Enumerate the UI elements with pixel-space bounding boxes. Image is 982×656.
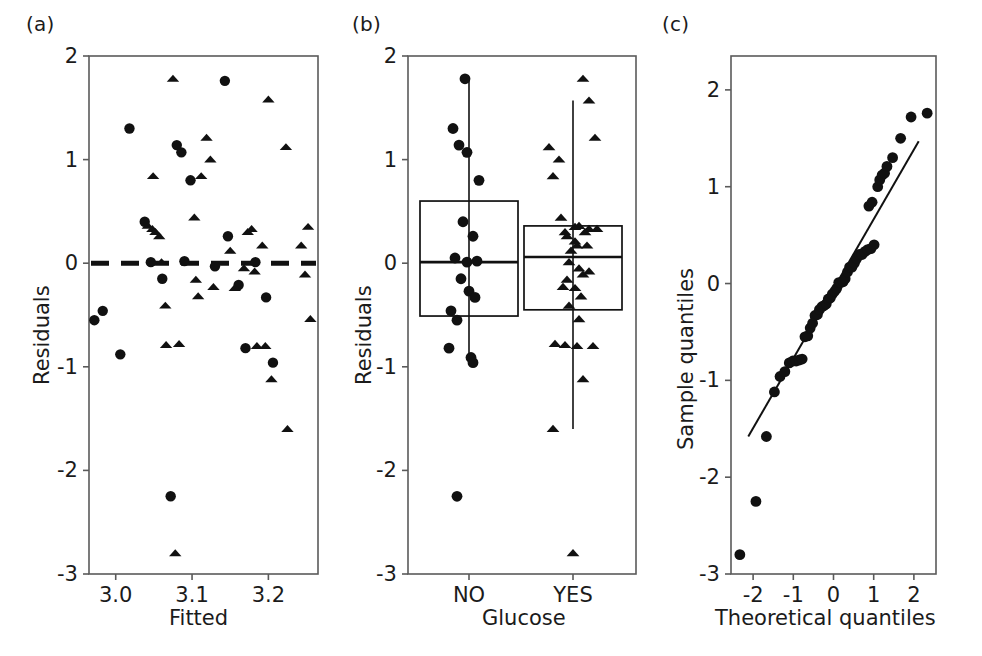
panel-c-data-point-circle bbox=[797, 354, 808, 365]
panel-a-data-point-triangle bbox=[195, 172, 207, 179]
panel-c-y-tick-label: -3 bbox=[699, 562, 720, 586]
panel-c-data-point-circle bbox=[867, 197, 878, 208]
panel-a-data-point-circle bbox=[268, 357, 278, 367]
panel-b-y-tick-label: 2 bbox=[384, 44, 397, 68]
panel-a-data-point-triangle bbox=[259, 342, 271, 349]
panel-b-data-point-triangle bbox=[561, 276, 574, 283]
panel-c-data-point-circle bbox=[734, 549, 745, 560]
panel-a-data-point-triangle bbox=[160, 341, 172, 348]
panel-a-y-axis-title: Residuals bbox=[30, 285, 54, 385]
panel-a-y-tick-label: -1 bbox=[57, 355, 78, 379]
panel-b-data-point-circle bbox=[444, 343, 455, 354]
panel-a-data-point-triangle bbox=[256, 242, 268, 249]
panel-b-data-point-triangle bbox=[553, 155, 566, 162]
panel-b-box-group-no bbox=[420, 79, 518, 363]
panel-c-y-tick-label: 2 bbox=[707, 78, 720, 102]
panel-b-y-tick-label: -2 bbox=[376, 458, 397, 482]
panel-b-label: (b) bbox=[352, 12, 381, 36]
panel-a-data-point-circle bbox=[146, 257, 156, 267]
panel-a-data-point-circle bbox=[98, 306, 108, 316]
panel-b-y-tick-label: -3 bbox=[376, 562, 397, 586]
panel-a-data-point-triangle bbox=[147, 172, 159, 179]
figure-root: (a) Residuals Fitted 210-1-2-33.03.13.2 … bbox=[0, 0, 982, 656]
panel-c-x-axis-title: Theoretical quantiles bbox=[715, 606, 936, 630]
panel-b-data-point-triangle bbox=[573, 315, 586, 322]
panel-b-x-tick-label: NO bbox=[453, 583, 485, 607]
panel-b-data-point-triangle bbox=[557, 283, 570, 290]
panel-c-y-tick-label: -1 bbox=[699, 368, 720, 392]
panel-a-x-tick-label: 3.1 bbox=[175, 583, 208, 607]
panel-c-data-point-circle bbox=[769, 387, 780, 398]
panel-a-data-point-triangle bbox=[281, 425, 293, 432]
panel-b-data-point-triangle bbox=[547, 172, 560, 179]
panel-c-data-point-circle bbox=[761, 431, 772, 442]
panel-a-x-axis-title: Fitted bbox=[169, 606, 228, 630]
panel-a-data-point-triangle bbox=[262, 95, 274, 102]
panel-a-data-point-triangle bbox=[245, 225, 257, 232]
panel-c-data-point-circle bbox=[895, 133, 906, 144]
panel-a-data-point-circle bbox=[124, 123, 134, 133]
panel-a-data-point-triangle bbox=[265, 375, 277, 382]
panel-a-data-point-circle bbox=[176, 147, 186, 157]
panel-a-data-point-circle bbox=[250, 257, 260, 267]
panel-a-data-point-triangle bbox=[204, 156, 216, 163]
panel-b-y-tick-label: 0 bbox=[384, 251, 397, 275]
panel-b-data-point-circle bbox=[446, 305, 457, 316]
panel-a-y-tick-label: 2 bbox=[65, 44, 78, 68]
panel-a-data-point-circle bbox=[165, 491, 175, 501]
panel-a-data-point-circle bbox=[115, 349, 125, 359]
panel-a-data-point-triangle bbox=[190, 276, 202, 283]
panel-b-data-point-triangle bbox=[567, 549, 580, 556]
panel-a-y-tick-label: -3 bbox=[57, 562, 78, 586]
panel-a-data-point-triangle bbox=[248, 267, 260, 274]
panel-b-data-point-triangle bbox=[547, 425, 560, 432]
panel-a-data-point-triangle bbox=[224, 247, 236, 254]
panel-a-data-point-triangle bbox=[207, 283, 219, 290]
panel-b-data-point-circle bbox=[456, 273, 467, 284]
panel-b-data-point-circle bbox=[448, 123, 459, 134]
panel-b-data-point-triangle bbox=[555, 213, 568, 220]
panel-c-data-point-circle bbox=[906, 112, 917, 123]
panel-b-data-point-triangle bbox=[559, 341, 572, 348]
panel-b-data-point-circle bbox=[468, 357, 479, 368]
panel-b-data-point-circle bbox=[452, 315, 463, 326]
panel-c-y-tick-label: 0 bbox=[707, 272, 720, 296]
panel-c-y-tick-label: 1 bbox=[707, 175, 720, 199]
panel-b-data-point-circle bbox=[450, 253, 461, 264]
panel-a-data-point-triangle bbox=[188, 214, 200, 221]
panel-b-data-point-triangle bbox=[569, 284, 582, 291]
panel-a-data-point-triangle bbox=[173, 340, 185, 347]
panel-a-data-point-circle bbox=[240, 343, 250, 353]
panel-a-x-tick-label: 3.2 bbox=[252, 583, 285, 607]
panel-b-data-point-circle bbox=[470, 292, 481, 303]
panel-b-data-point-triangle bbox=[543, 143, 556, 150]
panel-b-data-point-triangle bbox=[577, 75, 590, 82]
panel-a-data-point-circle bbox=[220, 76, 230, 86]
panel-a-plot-frame bbox=[89, 56, 318, 574]
panel-b-y-tick-label: -1 bbox=[376, 355, 397, 379]
panel-c-data-point-circle bbox=[922, 108, 933, 119]
panel-b-y-tick-label: 1 bbox=[384, 148, 397, 172]
panel-b-data-point-circle bbox=[462, 257, 473, 268]
panel-a-data-point-triangle bbox=[295, 242, 307, 249]
panel-a-x-tick-label: 3.0 bbox=[99, 583, 132, 607]
panel-b-data-point-triangle bbox=[577, 375, 590, 382]
panel-a-data-point-triangle bbox=[192, 292, 204, 299]
panel-a-data-point-triangle bbox=[302, 223, 314, 230]
panel-b-data-point-circle bbox=[462, 147, 473, 158]
panel-c-x-tick-label: 0 bbox=[827, 583, 840, 607]
panel-b-data-point-circle bbox=[472, 256, 483, 267]
panel-a-data-point-circle bbox=[89, 315, 99, 325]
panel-b-y-axis-title: Residuals bbox=[352, 285, 376, 385]
panel-a: (a) Residuals Fitted 210-1-2-33.03.13.2 bbox=[0, 0, 340, 656]
panel-b-data-point-triangle bbox=[581, 241, 594, 248]
panel-a-data-point-circle bbox=[223, 231, 233, 241]
panel-a-y-tick-label: -2 bbox=[57, 458, 78, 482]
panel-a-data-point-circle bbox=[157, 274, 167, 284]
panel-b-data-point-triangle bbox=[575, 292, 588, 299]
panel-c-plot-frame bbox=[731, 56, 936, 574]
panel-a-data-point-triangle bbox=[299, 271, 311, 278]
panel-c-x-tick-label: 1 bbox=[867, 583, 880, 607]
panel-c-label: (c) bbox=[662, 12, 689, 36]
panel-b-data-point-circle bbox=[452, 491, 463, 502]
